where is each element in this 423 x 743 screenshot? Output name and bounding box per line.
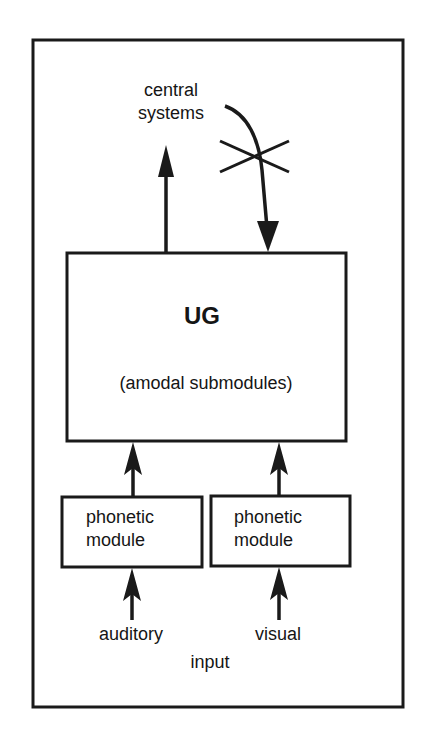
ug-subtitle: (amodal submodules) [66, 374, 346, 392]
phonetic-module-label-auditory: phonetic module [86, 506, 196, 552]
ug-title: UG [150, 304, 254, 328]
central-systems-line2: systems [111, 102, 231, 125]
ug-box [67, 253, 346, 441]
phonetic-module-line2: module [86, 529, 196, 552]
visual-input-label: visual [228, 625, 328, 643]
phonetic-module-line2: module [234, 529, 344, 552]
arrow-ug-to-central [158, 145, 174, 253]
phonetic-module-line1: phonetic [234, 506, 344, 529]
central-systems-label: central systems [111, 79, 231, 125]
arrow-central-to-ug-blocked [225, 106, 279, 252]
phonetic-module-label-visual: phonetic module [234, 506, 344, 552]
phonetic-module-line1: phonetic [86, 506, 196, 529]
arrow-phonetic-auditory-to-ug [124, 442, 142, 497]
arrow-phonetic-visual-to-ug [270, 442, 288, 496]
arrow-visual-to-phonetic [270, 567, 288, 620]
arrow-auditory-to-phonetic [123, 568, 141, 620]
input-group-label: input [160, 653, 260, 671]
central-systems-line1: central [111, 79, 231, 102]
auditory-input-label: auditory [81, 625, 181, 643]
blocked-x-icon [220, 141, 289, 172]
